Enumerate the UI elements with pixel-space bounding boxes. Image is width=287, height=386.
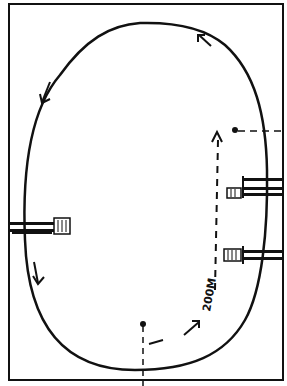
path-dashed-vertical (215, 140, 218, 290)
finish-marker-dot (232, 127, 238, 133)
path-arrow-icon (184, 321, 199, 335)
hurdle-left-icon (9, 218, 70, 234)
arrow-top-right-icon (198, 35, 211, 46)
path-dash-1 (149, 340, 163, 344)
distance-label: 200M (200, 277, 219, 313)
track-diagram: 200M (0, 0, 287, 386)
hurdle-right-upper-icon (227, 176, 283, 198)
hurdle-right-lower-icon (224, 246, 283, 264)
arrow-lower-left-icon (33, 262, 44, 284)
